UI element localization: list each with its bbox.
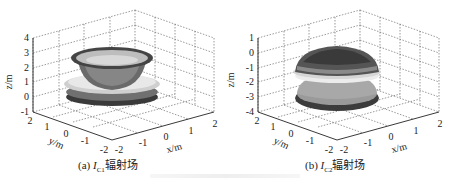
x-tick: 0 xyxy=(164,131,169,142)
y-tick: -2 xyxy=(325,144,333,155)
y-tick: -1 xyxy=(81,135,89,146)
caption-b: (b) IC2辐射场 xyxy=(305,156,365,174)
x-tick: -2 xyxy=(340,144,348,155)
x-tick: 1 xyxy=(189,125,194,136)
z-tick: -4 xyxy=(246,106,254,117)
z-tick: 1 xyxy=(24,76,29,87)
z-tick: 4 xyxy=(24,32,29,43)
y-tick: 1 xyxy=(271,121,276,132)
y-tick: -2 xyxy=(100,144,108,155)
z-tick: -2 xyxy=(246,76,254,87)
caption-prefix: (a) xyxy=(78,159,90,171)
x-tick: -1 xyxy=(364,137,372,148)
chart-panel-a: 4 3 2 1 0 -1 z/m 2 1 0 -1 -2 y/m -2 -1 0… xyxy=(0,0,225,183)
x-axis-label: x/m xyxy=(390,140,408,155)
z-tick: -3 xyxy=(246,91,254,102)
z-axis-label: z/m xyxy=(225,72,236,87)
z-axis-label: z/m xyxy=(3,74,14,89)
y-tick: 0 xyxy=(289,128,294,139)
faint-figure-caption-artifact xyxy=(150,174,300,178)
x-tick: 2 xyxy=(213,118,218,129)
z-tick: 0 xyxy=(24,91,29,102)
y-tick: 2 xyxy=(28,115,33,126)
z-tick: -1 xyxy=(246,62,254,73)
y-tick: -1 xyxy=(306,135,314,146)
x-tick: -1 xyxy=(139,137,147,148)
y-tick: 2 xyxy=(255,115,260,126)
y-tick: 1 xyxy=(45,121,50,132)
radiation-pattern-a xyxy=(64,47,160,106)
caption-a: (a) IC1辐射场 xyxy=(78,156,138,174)
x-tick: 1 xyxy=(414,125,419,136)
caption-subscript: C1 xyxy=(97,166,105,174)
z-tick: 0 xyxy=(249,47,254,58)
caption-prefix: (b) xyxy=(305,159,318,171)
plot-3d-a: 4 3 2 1 0 -1 z/m 2 1 0 -1 -2 y/m -2 -1 0… xyxy=(0,0,225,160)
z-tick: 3 xyxy=(24,47,29,58)
radiation-pattern-b xyxy=(293,46,381,111)
x-tick: -2 xyxy=(115,144,123,155)
x-tick: 2 xyxy=(438,118,443,129)
z-tick: 1 xyxy=(249,32,254,43)
caption-suffix: 辐射场 xyxy=(105,159,138,171)
caption-suffix: 辐射场 xyxy=(332,159,365,171)
x-axis-label: x/m xyxy=(165,140,183,155)
y-tick: 0 xyxy=(64,128,69,139)
z-tick: 2 xyxy=(24,62,29,73)
x-tick: 0 xyxy=(389,131,394,142)
chart-panel-b: 1 0 -1 -2 -3 -4 z/m 2 1 0 -1 -2 y/m -2 -… xyxy=(225,0,450,183)
plot-3d-b: 1 0 -1 -2 -3 -4 z/m 2 1 0 -1 -2 y/m -2 -… xyxy=(225,0,450,160)
